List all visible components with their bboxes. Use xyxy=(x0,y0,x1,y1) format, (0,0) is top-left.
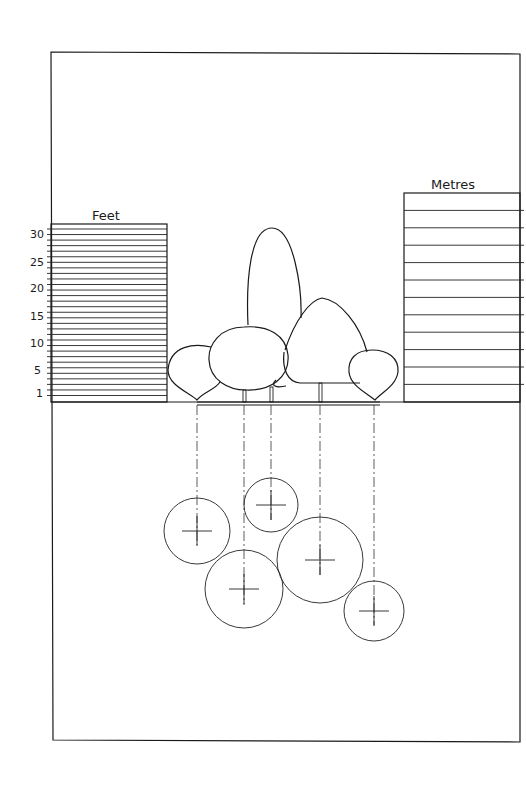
plan-circle-3 xyxy=(205,550,283,628)
metres-label: Metres xyxy=(431,177,475,192)
plan-view xyxy=(164,478,404,641)
tree-conical xyxy=(285,298,367,352)
tick-1: 1 xyxy=(36,387,43,400)
plan-circle-1 xyxy=(164,498,230,564)
frame xyxy=(51,52,520,742)
elevation-trees xyxy=(168,228,398,405)
tree-columnar xyxy=(248,228,302,325)
feet-scale: Feet 30 25 20 15 10 5 1 xyxy=(30,208,167,402)
metres-scale: Metres xyxy=(404,177,524,402)
tick-25: 25 xyxy=(30,256,44,269)
projection-lines xyxy=(197,405,374,625)
tree-weeping-right xyxy=(349,350,398,400)
feet-label: Feet xyxy=(92,208,120,223)
tick-15: 15 xyxy=(30,310,44,323)
tick-5: 5 xyxy=(34,364,41,377)
tree-diagram: Feet 30 25 20 15 10 5 1 Metres xyxy=(0,0,526,793)
tick-20: 20 xyxy=(30,282,44,295)
tick-10: 10 xyxy=(30,337,44,350)
plan-circle-4 xyxy=(277,517,363,603)
tick-30: 30 xyxy=(30,228,44,241)
